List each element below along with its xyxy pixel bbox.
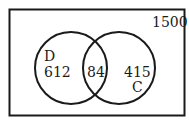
set-c-label: C xyxy=(132,79,143,95)
intersection-value: 84 xyxy=(87,64,105,80)
set-d-only-value: 612 xyxy=(44,64,71,80)
venn-diagram: 1500 D 612 84 415 C xyxy=(0,0,189,123)
set-c-only-value: 415 xyxy=(124,64,151,80)
set-d-label: D xyxy=(44,48,55,64)
universe-total: 1500 xyxy=(152,14,188,30)
